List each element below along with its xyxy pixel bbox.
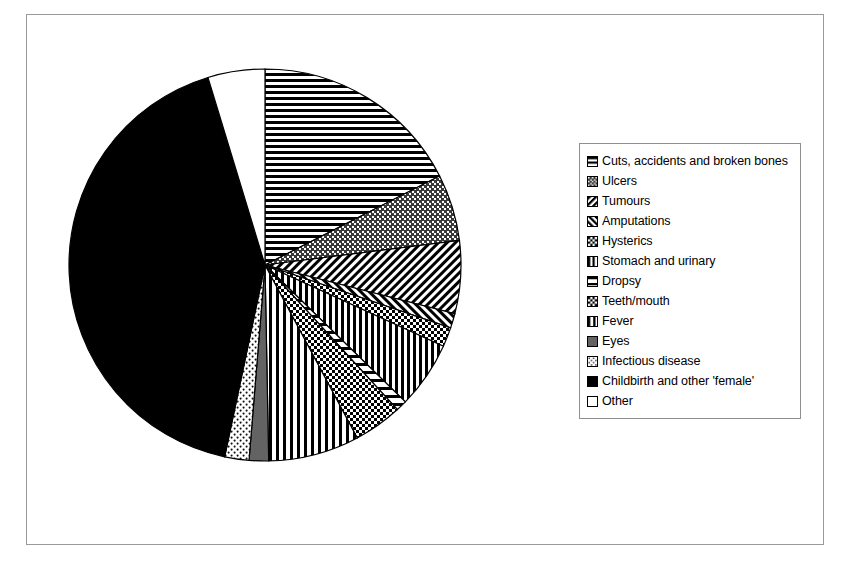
legend-item[interactable]: Eyes xyxy=(587,331,794,351)
legend-item-label: Childbirth and other 'female' xyxy=(602,375,754,388)
legend-swatch-dotted-grid-icon xyxy=(587,176,598,187)
legend-swatch-horizontal-lines-wide-icon xyxy=(587,276,598,287)
legend-swatch-vertical-lines-wide-icon xyxy=(587,316,598,327)
legend-item-label: Amputations xyxy=(602,215,670,228)
legend-swatch-diagonal-hatch-up-icon xyxy=(587,216,598,227)
legend-item[interactable]: Fever xyxy=(587,311,794,331)
legend-item-label: Ulcers xyxy=(602,175,637,188)
pie-chart xyxy=(59,43,509,493)
pie-slices xyxy=(69,69,461,461)
legend-swatch-checkerboard-icon xyxy=(587,236,598,247)
legend-item[interactable]: Dropsy xyxy=(587,271,794,291)
legend-item[interactable]: Stomach and urinary xyxy=(587,251,794,271)
legend-swatch-solid-gray-icon xyxy=(587,336,598,347)
legend-swatch-checkerboard-icon xyxy=(587,296,598,307)
legend-item[interactable]: Childbirth and other 'female' xyxy=(587,371,794,391)
legend-item-label: Dropsy xyxy=(602,275,641,288)
legend-item[interactable]: Infectious disease xyxy=(587,351,794,371)
legend-item-label: Hysterics xyxy=(602,235,653,248)
legend-item-label: Infectious disease xyxy=(602,355,700,368)
legend-item-label: Stomach and urinary xyxy=(602,255,715,268)
legend-item[interactable]: Ulcers xyxy=(587,171,794,191)
legend-item[interactable]: Amputations xyxy=(587,211,794,231)
legend-box: Cuts, accidents and broken bones Ulcers … xyxy=(579,143,801,419)
legend-item-label: Other xyxy=(602,395,633,408)
legend-item[interactable]: Other xyxy=(587,391,794,411)
legend-swatch-horizontal-lines-icon xyxy=(587,156,598,167)
legend-item-label: Teeth/mouth xyxy=(602,295,670,308)
plot-area: Cuts, accidents and broken bones Ulcers … xyxy=(27,15,825,546)
legend-swatch-fine-dots-icon xyxy=(587,356,598,367)
legend-item-label: Eyes xyxy=(602,335,629,348)
figure-frame: Cuts, accidents and broken bones Ulcers … xyxy=(26,14,824,545)
legend-item[interactable]: Tumours xyxy=(587,191,794,211)
legend-item[interactable]: Teeth/mouth xyxy=(587,291,794,311)
legend-item-label: Tumours xyxy=(602,195,650,208)
pie-chart-svg xyxy=(59,43,509,493)
legend-item-label: Cuts, accidents and broken bones xyxy=(602,155,788,168)
legend-swatch-white-icon xyxy=(587,396,598,407)
legend-swatch-diagonal-hatch-down-icon xyxy=(587,196,598,207)
legend-item-label: Fever xyxy=(602,315,633,328)
legend-item[interactable]: Hysterics xyxy=(587,231,794,251)
legend-swatch-vertical-lines-icon xyxy=(587,256,598,267)
legend-swatch-solid-black-icon xyxy=(587,376,598,387)
legend-item[interactable]: Cuts, accidents and broken bones xyxy=(587,151,794,171)
